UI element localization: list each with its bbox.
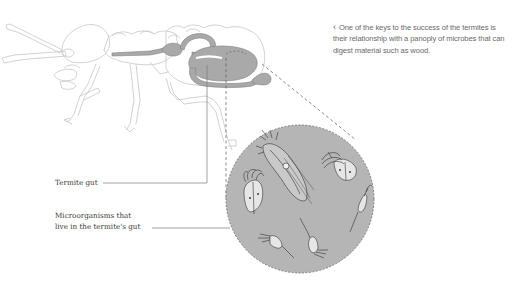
leg-middle bbox=[124, 64, 140, 132]
antenna-upper bbox=[6, 24, 62, 53]
leg-hind bbox=[166, 78, 232, 150]
left-arrow-icon: ‹ bbox=[333, 22, 336, 32]
termite-gut-leader bbox=[103, 65, 207, 183]
label-microorganisms-line1: Microorganisms that bbox=[55, 210, 140, 221]
label-termite-gut: Termite gut bbox=[55, 177, 98, 188]
leader-lines bbox=[103, 65, 230, 228]
leg-front bbox=[64, 64, 100, 124]
label-microorganisms: Microorganisms that live in the termite'… bbox=[55, 210, 140, 232]
paunch bbox=[189, 46, 258, 81]
termite-diagram: ‹One of the keys to the success of the t… bbox=[0, 0, 514, 291]
microorganism-inset bbox=[226, 125, 374, 273]
termite-gut bbox=[112, 34, 271, 88]
caption-text: One of the keys to the success of the te… bbox=[333, 23, 504, 55]
label-microorganisms-line2: live in the termite's gut bbox=[55, 221, 140, 232]
caption: ‹One of the keys to the success of the t… bbox=[333, 22, 509, 56]
foregut bbox=[112, 47, 168, 56]
antenna-lower bbox=[2, 51, 66, 63]
rectum bbox=[252, 73, 271, 85]
